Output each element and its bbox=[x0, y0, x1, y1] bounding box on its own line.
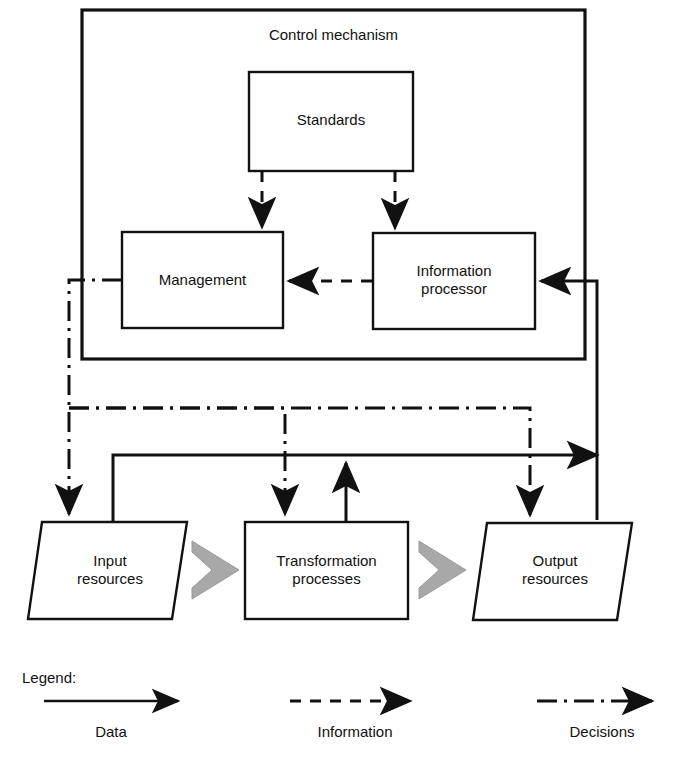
transformation-processes-box bbox=[245, 522, 408, 619]
legend-heading: Legend: bbox=[22, 669, 76, 686]
connector-output-resources-to-information-processor bbox=[541, 281, 597, 520]
diagram-canvas bbox=[0, 0, 684, 763]
output-resources-shape bbox=[473, 523, 632, 620]
control-mechanism-title: Control mechanism bbox=[82, 26, 585, 43]
legend-label-decisions: Decisions bbox=[535, 723, 669, 740]
standards-box bbox=[249, 72, 413, 171]
input-resources-shape bbox=[28, 522, 187, 619]
management-box bbox=[122, 232, 283, 328]
system-diagram: Control mechanism Standards Management I… bbox=[0, 0, 684, 763]
legend-label-information: Information bbox=[288, 723, 422, 740]
information-processor-box bbox=[373, 233, 535, 329]
flow-arrow-input-to-transformation bbox=[192, 541, 239, 599]
flow-arrow-transformation-to-output bbox=[419, 541, 466, 599]
connector-management-to-output-resources bbox=[69, 408, 530, 515]
connector-input-resources-to-data-bus bbox=[113, 455, 597, 522]
legend-label-data: Data bbox=[44, 723, 178, 740]
connector-management-to-transformation-processes bbox=[69, 408, 285, 514]
